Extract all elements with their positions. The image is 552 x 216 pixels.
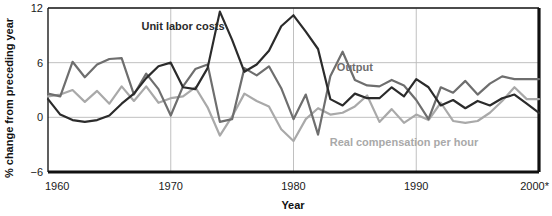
y-tick-label: 0: [37, 111, 43, 123]
y-tick-label: 12: [31, 2, 43, 14]
x-tick-label: 2000*: [520, 180, 549, 192]
y-tick-label: −6: [30, 166, 43, 178]
line-chart: −60612 19601970198019902000* Unit labor …: [0, 0, 552, 216]
x-tick-label: 1970: [159, 180, 183, 192]
y-tick-label: 6: [37, 57, 43, 69]
y-axis-tick-labels: −60612: [30, 2, 43, 178]
series-label-real-compensation-per-hour: Real compensation per hour: [330, 136, 479, 148]
x-tick-label: 1990: [404, 180, 428, 192]
x-axis-tick-labels: 19601970198019902000*: [45, 180, 550, 192]
x-axis-title: Year: [281, 199, 305, 211]
series-label-unit-labor-costs: Unit labor costs: [141, 20, 224, 32]
y-axis-title: % change from preceding year: [3, 17, 15, 178]
x-tick-label: 1960: [45, 180, 69, 192]
series-label-output: Output: [337, 61, 373, 73]
x-tick-label: 1980: [281, 180, 305, 192]
chart-container: −60612 19601970198019902000* Unit labor …: [0, 0, 552, 216]
